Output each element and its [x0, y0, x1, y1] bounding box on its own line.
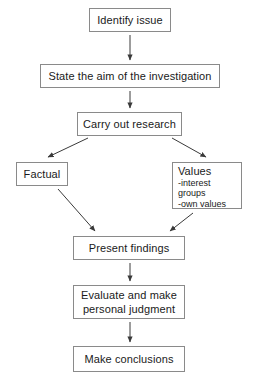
node-label: State the aim of the investigation	[49, 70, 212, 83]
node-state-aim[interactable]: State the aim of the investigation	[40, 64, 220, 88]
node-label-line1: Evaluate and make	[81, 289, 177, 302]
node-sub-item-interest-groups: -interest groups	[178, 178, 237, 199]
edge-research-to-factual	[48, 138, 88, 157]
node-label-line2: personal judgment	[83, 303, 175, 316]
node-sub-item-own-values: -own values	[178, 199, 226, 210]
node-label: Carry out research	[83, 118, 176, 131]
node-label: Factual	[24, 168, 61, 181]
node-evaluate-personal-judgment[interactable]: Evaluate and make personal judgment	[73, 285, 185, 319]
node-carry-out-research[interactable]: Carry out research	[77, 112, 182, 136]
node-values[interactable]: Values -interest groups -own values	[172, 162, 242, 209]
node-label: Make conclusions	[84, 353, 173, 366]
edge-research-to-values	[172, 138, 206, 157]
edge-values-to-present	[170, 213, 193, 231]
node-label: Identify issue	[97, 14, 163, 27]
flowchart-canvas: Identify issue State the aim of the inve…	[0, 0, 261, 383]
edge-factual-to-present	[58, 189, 95, 231]
node-label: Values	[178, 165, 211, 178]
node-factual[interactable]: Factual	[16, 162, 68, 186]
node-present-findings[interactable]: Present findings	[73, 236, 185, 260]
node-make-conclusions[interactable]: Make conclusions	[73, 346, 185, 372]
node-identify-issue[interactable]: Identify issue	[89, 8, 171, 32]
node-label: Present findings	[89, 242, 169, 255]
